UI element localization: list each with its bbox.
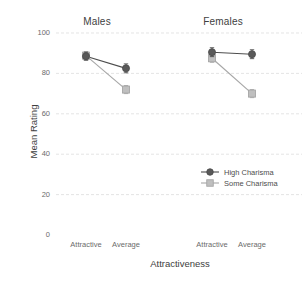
- data-point-marker: [209, 49, 216, 56]
- data-point-marker: [123, 86, 130, 93]
- chart-container: Males Females 100806040200 AttractiveAve…: [0, 0, 308, 281]
- square-marker-icon: [207, 180, 214, 187]
- y-axis-title: Mean Rating: [28, 87, 39, 177]
- data-point-marker: [123, 65, 130, 72]
- series-line: [212, 52, 252, 54]
- legend-label-high-charisma: High Charisma: [224, 168, 274, 177]
- data-point-marker: [249, 90, 256, 97]
- y-tick-label: 20: [24, 190, 50, 199]
- legend-markers: [201, 169, 219, 187]
- y-tick-label: 80: [24, 68, 50, 77]
- series-line: [86, 56, 126, 68]
- series-layer: [83, 48, 256, 98]
- legend-label-some-charisma: Some Charisma: [224, 179, 278, 188]
- x-tick-label: Average: [224, 240, 280, 249]
- data-point-marker: [249, 51, 256, 58]
- series-line: [86, 56, 126, 90]
- y-tick-label: 100: [24, 28, 50, 37]
- x-axis-title: Attractiveness: [60, 258, 300, 269]
- y-tick-label: 0: [24, 230, 50, 239]
- circle-marker-icon: [207, 169, 214, 176]
- x-tick-label: Average: [98, 240, 154, 249]
- series-line: [212, 58, 252, 93]
- data-point-marker: [83, 53, 90, 60]
